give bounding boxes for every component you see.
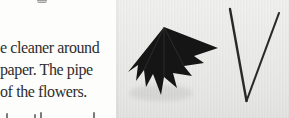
text-line-2: paper. The pipe (0, 62, 93, 78)
cutoff-descender-fragment (37, 0, 47, 3)
v-shaped-wire-icon (230, 9, 279, 101)
folded-black-paper-umbrella-icon (128, 27, 218, 95)
text-line-3: of the flowers. (0, 84, 87, 100)
cutoff-ascender-fragment (93, 112, 95, 118)
cutoff-ascender-fragment (6, 113, 8, 118)
photo-artwork (116, 0, 289, 118)
craft-step-photo (116, 0, 289, 118)
cutoff-ascender-fragment (34, 114, 36, 118)
book-page-crop: e cleaner around paper. The pipe of the … (0, 0, 289, 118)
cutoff-ascender-fragment (40, 112, 42, 118)
body-text-column: e cleaner around paper. The pipe of the … (0, 0, 116, 118)
text-line-1: e cleaner around (0, 40, 99, 56)
